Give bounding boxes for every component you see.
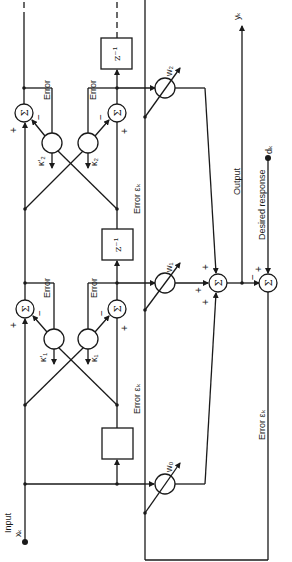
svg-text:+: + — [253, 266, 264, 272]
svg-text:Error εₖ: Error εₖ — [132, 383, 142, 414]
svg-text:−: − — [95, 114, 106, 120]
svg-text:κ′₁: κ′₁ — [38, 353, 48, 362]
desired-label: Desired response — [257, 169, 267, 240]
output-section: Σ + + + yₖ Output − Σ + dₖ Desired respo… — [132, 0, 277, 560]
svg-text:Error: Error — [42, 80, 52, 100]
input-label: Input — [3, 512, 13, 533]
svg-text:Error: Error — [88, 80, 98, 100]
svg-text:w₁: w₁ — [164, 262, 174, 273]
input-node — [22, 539, 28, 545]
svg-text:w₂: w₂ — [164, 66, 174, 77]
svg-text:κ₁: κ₁ — [89, 354, 99, 362]
svg-text:−: − — [34, 310, 45, 316]
svg-text:+: + — [8, 322, 19, 328]
svg-text:+: + — [8, 127, 19, 133]
svg-text:Σ: Σ — [112, 109, 123, 116]
svg-text:Error: Error — [89, 278, 99, 298]
output-symbol: yₖ — [232, 12, 242, 21]
svg-text:w₀: w₀ — [164, 462, 174, 473]
svg-text:z⁻¹: z⁻¹ — [112, 237, 123, 252]
svg-text:+: + — [119, 325, 130, 331]
input-symbol: xₖ — [13, 529, 23, 538]
svg-text:Σ: Σ — [263, 279, 274, 286]
svg-text:z⁻¹: z⁻¹ — [111, 46, 122, 61]
svg-text:Σ: Σ — [19, 109, 30, 116]
svg-text:−: − — [247, 274, 258, 280]
svg-text:κ₂: κ₂ — [89, 158, 99, 167]
svg-text:Error εₖ: Error εₖ — [257, 409, 267, 440]
svg-text:−: − — [96, 310, 107, 316]
svg-text:Error εₖ: Error εₖ — [132, 183, 142, 214]
svg-text:+: + — [200, 264, 211, 270]
lattice-filter-diagram: Σ Σ Error Error κ′₁ κ₁ + − − + z⁻¹ — [0, 0, 292, 562]
svg-text:κ′₂: κ′₂ — [36, 156, 46, 166]
svg-text:+: + — [193, 287, 204, 293]
svg-text:Error: Error — [42, 278, 52, 298]
svg-text:Σ: Σ — [112, 305, 123, 312]
lattice-stage-1: Σ Σ Error Error κ′₁ κ₁ + − − + z⁻¹ — [8, 113, 133, 407]
lattice-stage-2: Σ Σ Error Error κ′₂ κ₂ + − − + z⁻¹ — [8, 0, 132, 211]
delay-box-0 — [102, 428, 133, 459]
svg-text:Σ: Σ — [20, 305, 31, 312]
svg-text:dₖ: dₖ — [264, 145, 274, 154]
svg-text:+: + — [119, 128, 130, 134]
svg-text:+: + — [200, 299, 211, 305]
output-label: Output — [232, 167, 242, 195]
svg-text:−: − — [33, 114, 44, 120]
svg-text:Σ: Σ — [213, 279, 224, 286]
